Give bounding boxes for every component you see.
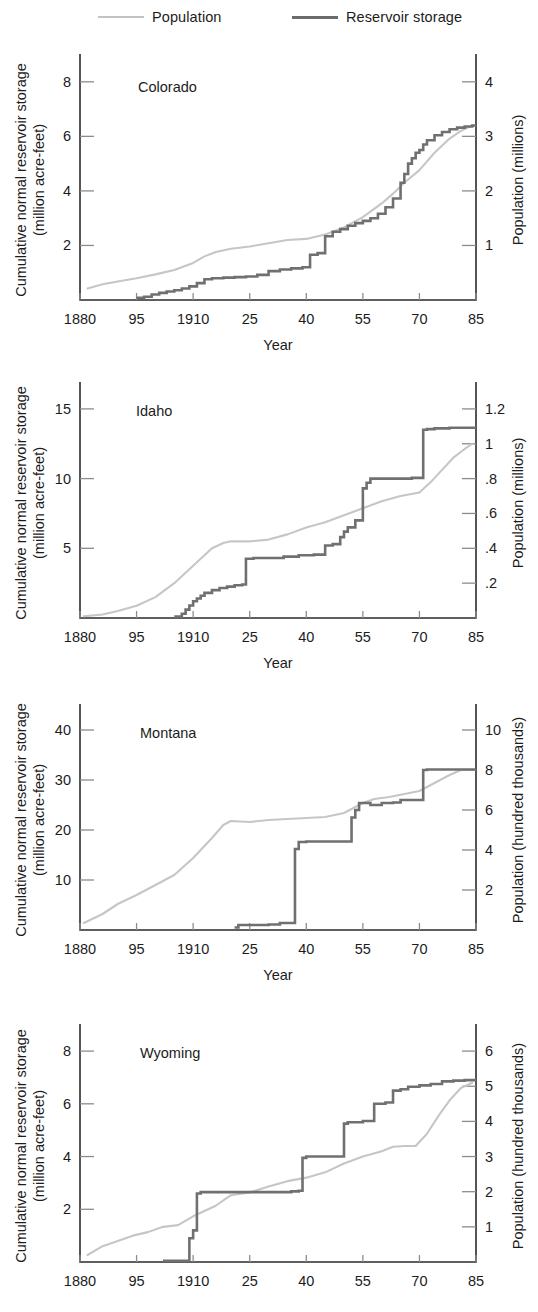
x-axis-title: Year: [263, 337, 292, 353]
panel-title: Montana: [140, 725, 197, 741]
y-axis-tick-label-left: 15: [55, 401, 71, 417]
x-axis-title: Year: [263, 967, 292, 983]
x-axis-tick-label: 1880: [64, 311, 96, 327]
y-axis-tick-label-right: 8: [485, 762, 493, 778]
legend-item-reservoir-storage: Reservoir storage: [292, 10, 462, 25]
y-axis-tick-label-right: 3: [485, 1149, 493, 1165]
y-axis-tick-label-right: 1: [485, 1219, 493, 1235]
y-axis-title-left: Cumulative normal reservoir storage: [13, 1029, 29, 1263]
y-axis-title-left-units: (million acre-feet): [31, 447, 47, 559]
y-axis-title-right: Population (millions): [510, 438, 526, 569]
y-axis-tick-label-left: 2: [63, 1201, 71, 1217]
y-axis-title-right: Population (millions): [510, 115, 526, 246]
y-axis-title-left: Cumulative normal reservoir storage: [13, 63, 29, 297]
x-axis-tick-label: 25: [242, 1273, 258, 1289]
x-axis-tick-label: 55: [355, 1273, 371, 1289]
y-axis-tick-label-left: 40: [55, 722, 71, 738]
y-axis-tick-label-left: 10: [55, 471, 71, 487]
y-axis-tick-label-right: 2: [485, 882, 493, 898]
y-axis-tick-label-right: 6: [485, 1043, 493, 1059]
chart-legend: Population Reservoir storage: [0, 0, 538, 42]
y-axis-tick-label-left: 30: [55, 772, 71, 788]
x-axis-tick-label: 1910: [177, 311, 209, 327]
x-axis-tick-label: 70: [411, 1273, 427, 1289]
y-axis-title-right: Population (hundred thousands): [510, 1043, 526, 1249]
legend-label-population: Population: [152, 10, 222, 25]
series-line-population: [84, 770, 472, 923]
legend-item-population: Population: [98, 10, 222, 25]
x-axis-tick-label: 25: [242, 311, 258, 327]
y-axis-tick-label-right: 1.2: [485, 401, 505, 417]
x-axis-tick-label: 40: [298, 941, 314, 957]
series-line-population: [88, 125, 473, 288]
panel-title: Wyoming: [140, 1045, 200, 1061]
y-axis-tick-label-right: 2: [485, 1184, 493, 1200]
x-axis-tick-label: 95: [129, 311, 145, 327]
chart-panel-montana: 1020304024681018809519102540557085Cumula…: [0, 680, 538, 990]
chart-panel-colorado: 2468123418809519102540557085Cumulative n…: [0, 42, 538, 370]
x-axis-tick-label: 85: [468, 629, 484, 645]
x-axis-tick-label: 70: [411, 311, 427, 327]
x-axis-tick-label: 1880: [64, 1273, 96, 1289]
legend-label-reservoir-storage: Reservoir storage: [346, 10, 462, 25]
y-axis-tick-label-left: 20: [55, 822, 71, 838]
x-axis-tick-label: 70: [411, 941, 427, 957]
y-axis-tick-label-left: 8: [63, 74, 71, 90]
legend-swatch-population-icon: [98, 16, 144, 18]
x-axis-tick-label: 25: [242, 941, 258, 957]
panel-title: Colorado: [138, 79, 197, 95]
y-axis-tick-label-right: .2: [485, 575, 497, 591]
x-axis-tick-label: 1880: [64, 629, 96, 645]
series-line-reservoir-storage: [163, 1080, 476, 1261]
y-axis-tick-label-right: .6: [485, 505, 497, 521]
x-axis-tick-label: 95: [129, 1273, 145, 1289]
y-axis-title-right: Population (hundred thousands): [510, 717, 526, 923]
y-axis-tick-label-left: 4: [63, 183, 71, 199]
x-axis-tick-label: 1910: [177, 941, 209, 957]
y-axis-tick-label-left: 6: [63, 1096, 71, 1112]
legend-swatch-reservoir-storage-icon: [292, 16, 338, 19]
x-axis-tick-label: 95: [129, 941, 145, 957]
y-axis-tick-label-left: 5: [63, 540, 71, 556]
x-axis-tick-label: 85: [468, 941, 484, 957]
y-axis-tick-label-right: 1: [485, 237, 493, 253]
x-axis-tick-label: 70: [411, 629, 427, 645]
x-axis-tick-label: 40: [298, 1273, 314, 1289]
y-axis-title-left: Cumulative normal reservoir storage: [13, 703, 29, 937]
y-axis-tick-label-right: 4: [485, 842, 493, 858]
y-axis-title-left-units: (million acre-feet): [31, 764, 47, 876]
x-axis-tick-label: 55: [355, 311, 371, 327]
series-line-population: [88, 1083, 473, 1255]
y-axis-tick-label-left: 8: [63, 1043, 71, 1059]
x-axis-tick-label: 85: [468, 1273, 484, 1289]
y-axis-tick-label-right: .4: [485, 540, 497, 556]
x-axis-title: Year: [263, 655, 292, 671]
x-axis-tick-label: 25: [242, 629, 258, 645]
y-axis-title-left-units: (million acre-feet): [31, 1090, 47, 1202]
y-axis-tick-label-right: 5: [485, 1078, 493, 1094]
y-axis-title-left-units: (million acre-feet): [31, 124, 47, 236]
y-axis-tick-label-right: 2: [485, 183, 493, 199]
y-axis-tick-label-left: 4: [63, 1149, 71, 1165]
y-axis-tick-label-right: 3: [485, 128, 493, 144]
x-axis-tick-label: 40: [298, 311, 314, 327]
y-axis-tick-label-right: 6: [485, 802, 493, 818]
y-axis-tick-label-right: 1: [485, 436, 493, 452]
y-axis-title-left: Cumulative normal reservoir storage: [13, 386, 29, 620]
y-axis-tick-label-right: .8: [485, 471, 497, 487]
series-line-reservoir-storage: [235, 770, 476, 928]
panel-title: Idaho: [136, 403, 172, 419]
x-axis-tick-label: 95: [129, 629, 145, 645]
y-axis-tick-label-left: 6: [63, 128, 71, 144]
y-axis-tick-label-right: 10: [485, 722, 501, 738]
x-axis-tick-label: 85: [468, 311, 484, 327]
x-axis-tick-label: 1910: [177, 1273, 209, 1289]
x-axis-tick-label: 40: [298, 629, 314, 645]
y-axis-tick-label-left: 10: [55, 872, 71, 888]
y-axis-tick-label-right: 4: [485, 74, 493, 90]
chart-panel-idaho: 51015.2.4.6.811.218809519102540557085Cum…: [0, 370, 538, 680]
y-axis-tick-label-right: 4: [485, 1113, 493, 1129]
x-axis-tick-label: 55: [355, 941, 371, 957]
x-axis-tick-label: 1910: [177, 629, 209, 645]
series-line-population: [84, 444, 472, 617]
